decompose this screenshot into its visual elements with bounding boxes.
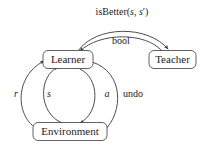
node-environment-label: Environment bbox=[41, 125, 98, 137]
diagram-svg: Learner Teacher Environment isBetter(s, … bbox=[0, 0, 204, 146]
node-teacher-label: Teacher bbox=[155, 53, 190, 65]
diagram-canvas: Learner Teacher Environment isBetter(s, … bbox=[0, 0, 204, 146]
edge-label-undo: undo bbox=[123, 88, 143, 99]
edge-label-reward: r bbox=[14, 88, 18, 99]
edge-reward bbox=[21, 61, 47, 132]
edge-label-bool: bool bbox=[112, 35, 130, 46]
node-environment[interactable]: Environment bbox=[33, 123, 107, 141]
node-learner-label: Learner bbox=[51, 53, 86, 65]
node-learner[interactable]: Learner bbox=[43, 51, 93, 69]
edge-label-action: a bbox=[105, 88, 110, 99]
is-better-fn-name: isBetter( bbox=[96, 6, 131, 18]
is-better-close-paren: ′) bbox=[143, 6, 149, 18]
edge-action bbox=[80, 69, 95, 123]
edge-label-state: s bbox=[47, 88, 51, 99]
node-teacher[interactable]: Teacher bbox=[149, 51, 196, 69]
edge-label-is-better: isBetter(s, s′) bbox=[96, 6, 149, 18]
